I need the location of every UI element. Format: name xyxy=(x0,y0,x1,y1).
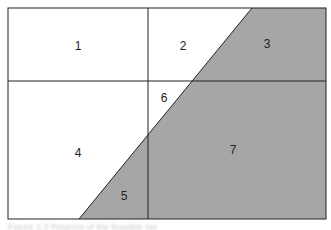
region-label-3: 3 xyxy=(264,37,271,51)
region-label-5: 5 xyxy=(121,189,128,203)
region-label-7: 7 xyxy=(230,143,237,157)
region-diagram: 1 2 3 4 5 6 7 xyxy=(0,0,331,230)
region-label-1: 1 xyxy=(75,39,82,53)
region-label-4: 4 xyxy=(75,146,82,160)
region-label-6: 6 xyxy=(161,91,168,105)
region-label-2: 2 xyxy=(180,39,187,53)
figure-caption: Figure 2.3 Regions of the feasible set xyxy=(8,222,157,230)
